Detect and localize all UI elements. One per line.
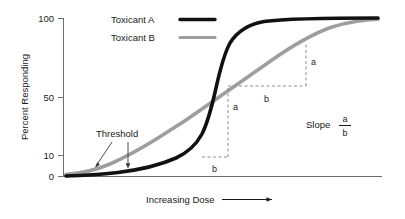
y-tick-label-50: 50 — [43, 92, 54, 103]
chart-canvas: 100 50 10 0 Percent Responding Increasin… — [0, 0, 405, 219]
legend-label-toxicant-a: Toxicant A — [111, 14, 155, 25]
slope-formula-numerator: a — [342, 114, 347, 124]
slope-formula-denominator: b — [342, 128, 347, 138]
triangle-b-run-label: b — [264, 94, 269, 104]
legend-label-toxicant-b: Toxicant B — [111, 32, 155, 43]
x-axis-arrow-icon — [222, 197, 272, 202]
dose-response-chart: 100 50 10 0 Percent Responding Increasin… — [0, 0, 405, 219]
slope-formula: Slope a b — [306, 114, 351, 138]
triangle-b-rise-label: a — [311, 57, 316, 67]
y-tick-label-10: 10 — [43, 150, 54, 161]
slope-triangle-toxicant-b: a b — [264, 43, 316, 104]
y-axis: 100 50 10 0 Percent Responding — [19, 13, 64, 182]
x-axis: Increasing Dose — [64, 177, 383, 206]
x-axis-title: Increasing Dose — [146, 194, 215, 205]
y-tick-label-0: 0 — [49, 171, 54, 182]
y-tick-label-100: 100 — [38, 13, 54, 24]
threshold-label: Threshold — [96, 128, 138, 139]
legend: Toxicant A Toxicant B — [111, 14, 215, 43]
triangle-a-run-label: b — [212, 164, 217, 174]
triangle-a-rise-label: a — [233, 102, 238, 112]
slope-formula-word: Slope — [306, 119, 330, 130]
y-axis-title: Percent Responding — [19, 54, 30, 140]
